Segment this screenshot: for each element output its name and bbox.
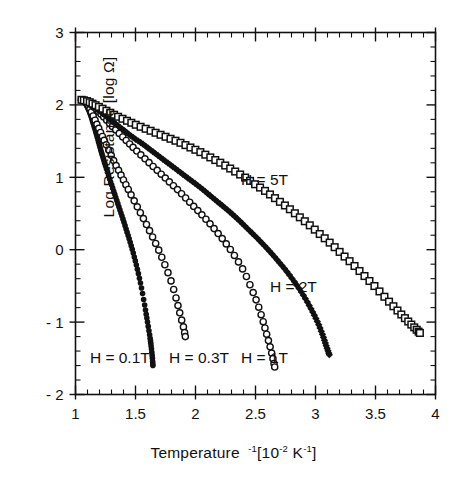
y-tick-label: - 2 [46,386,64,403]
x-axis-label-bracket-open: [10 [257,444,279,461]
data-point [137,275,143,281]
x-tick-label: 3.5 [365,405,386,422]
data-point [260,319,266,325]
data-point [417,330,424,337]
y-tick-label: 3 [55,24,63,41]
data-point [141,297,147,303]
x-tick-label: 3 [311,405,319,422]
data-point [146,228,152,234]
data-point [138,280,144,286]
series-label-h-2t: H = 2T [270,278,317,295]
data-point [175,302,181,308]
data-point [171,286,177,292]
data-point [235,259,241,265]
y-axis-ticks [70,33,436,395]
x-tick-label: 4 [431,405,439,422]
data-point [128,192,134,198]
y-axis-label-text: Log Resistance [log Ω] [100,57,117,218]
data-point [265,337,271,343]
series-label-h-0-3t: H = 0.3T [169,349,229,366]
data-point [140,216,146,222]
x-axis-label-base: Temperature [150,444,239,461]
x-axis-ticks [76,28,436,400]
data-point [150,363,156,369]
data-point [140,291,146,297]
x-axis-label: Temperature -1[10-2 K-1] [0,443,467,462]
y-axis-label: Log Resistance [log Ω] [100,22,118,252]
x-axis-label-exp2: -2 [279,443,288,454]
x-tick-label: 1.5 [125,405,146,422]
data-point [173,295,179,301]
x-axis-label-bracket-close: ] [312,444,317,461]
data-point [131,198,137,204]
data-point [137,210,143,216]
plot-canvas: 11.522.533.54 3210- 1- 2 H = 0.1TH = 0.3… [0,0,467,484]
y-tick-label: 1 [55,169,63,186]
data-point [168,278,174,284]
data-point [227,246,233,252]
data-point [264,331,270,337]
data-point [240,266,246,272]
x-axis-label-unit: K [288,444,303,461]
data-point [165,270,171,276]
data-point [162,262,168,268]
x-axis-label-exp3: -1 [303,443,312,454]
y-tick-label: 0 [55,241,63,258]
data-point [258,312,264,318]
data-point [134,204,140,210]
data-point [150,234,156,240]
data-point [253,297,259,303]
x-tick-label: 1 [71,405,79,422]
data-point [156,247,162,253]
data-point [231,252,237,258]
data-point [177,310,183,316]
data-point [142,302,148,308]
data-point [250,289,256,295]
data-point [143,221,149,227]
data-point [139,285,145,291]
series-label-h-0-1t: H = 0.1T [90,349,150,366]
data-point [243,273,249,279]
data-point [179,317,185,323]
y-tick-label: 2 [55,96,63,113]
x-axis-label-exp1: -1 [248,443,257,454]
y-tick-labels: 3210- 1- 2 [46,24,64,403]
data-point [247,282,253,288]
data-point [256,304,262,310]
data-point [159,254,165,260]
data-point [153,240,159,246]
x-tick-label: 2.5 [245,405,266,422]
x-tick-label: 2 [191,405,199,422]
series-label-h-5t: H = 5T [241,171,288,188]
plot-frame [76,33,436,395]
series-label-h-1t: H = 1T [241,349,288,366]
x-tick-labels: 11.522.533.54 [71,405,439,422]
y-tick-label: - 1 [46,314,64,331]
data-series-group [78,96,423,370]
figure-container: Log Resistance [log Ω] Temperature -1[10… [0,0,467,484]
data-point [223,241,229,247]
data-point [262,325,268,331]
data-point [182,333,188,339]
